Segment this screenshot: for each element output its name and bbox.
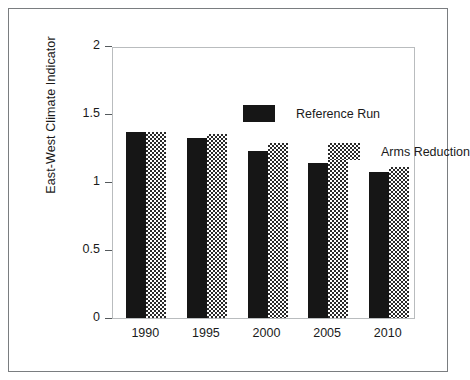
y-axis-tick-mark <box>105 318 112 319</box>
x-axis-tick-label: 1990 <box>110 326 180 340</box>
bar-2010-reference-run <box>369 172 389 318</box>
y-axis-tick-label: 0 <box>93 310 100 324</box>
x-axis-tick-label: 2010 <box>353 326 423 340</box>
y-axis-tick-mark <box>105 250 112 251</box>
legend-label-arms-reduction: Arms Reduction <box>381 145 470 159</box>
x-axis-tick-label: 1995 <box>171 326 241 340</box>
y-axis-tick-label: 0.5 <box>83 242 100 256</box>
legend-label-reference-run: Reference Run <box>296 107 380 121</box>
plot-area: Reference Run Arms Reduction <box>112 47 415 319</box>
bar-1990-reference-run <box>126 132 146 318</box>
y-axis-tick-mark <box>105 182 112 183</box>
legend-swatch-reference-run <box>243 105 275 122</box>
legend-swatch-arms-reduction <box>328 143 360 160</box>
legend-entry-arms-reduction: Arms Reduction <box>328 143 470 160</box>
y-axis-tick-mark <box>105 46 112 47</box>
bar-2000-reference-run <box>248 151 268 318</box>
bar-1990-arms-reduction <box>146 132 166 318</box>
y-axis-tick-label: 1.5 <box>83 106 100 120</box>
bar-2005-reference-run <box>308 163 328 318</box>
bar-2005-arms-reduction <box>328 158 348 318</box>
y-axis-tick-mark <box>105 114 112 115</box>
legend-entry-reference-run: Reference Run <box>243 105 380 122</box>
x-axis-tick-label: 2000 <box>232 326 302 340</box>
bar-1995-arms-reduction <box>207 134 227 318</box>
y-axis-title: East-West Climate Indicator <box>44 0 58 230</box>
bar-2000-arms-reduction <box>268 143 288 318</box>
y-axis-tick-label: 2 <box>93 38 100 52</box>
y-axis-tick-label: 1 <box>93 174 100 188</box>
bar-2010-arms-reduction <box>389 167 409 318</box>
bar-1995-reference-run <box>187 138 207 318</box>
x-axis-tick-label: 2005 <box>292 326 362 340</box>
